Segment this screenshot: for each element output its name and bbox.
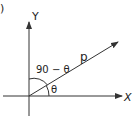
angle-label-90-minus-theta: 90 − θ (36, 64, 70, 75)
angle-arc-90-minus-theta (29, 78, 48, 85)
vector-diagram: ) X Y p 90 − θ θ (0, 0, 138, 118)
vector-label: p (80, 50, 88, 64)
y-axis-label: Y (31, 10, 39, 23)
angle-label-theta: θ (51, 84, 57, 95)
corner-mark: ) (0, 2, 4, 15)
x-axis-label: X (123, 91, 132, 104)
angle-arc-theta (47, 86, 50, 96)
